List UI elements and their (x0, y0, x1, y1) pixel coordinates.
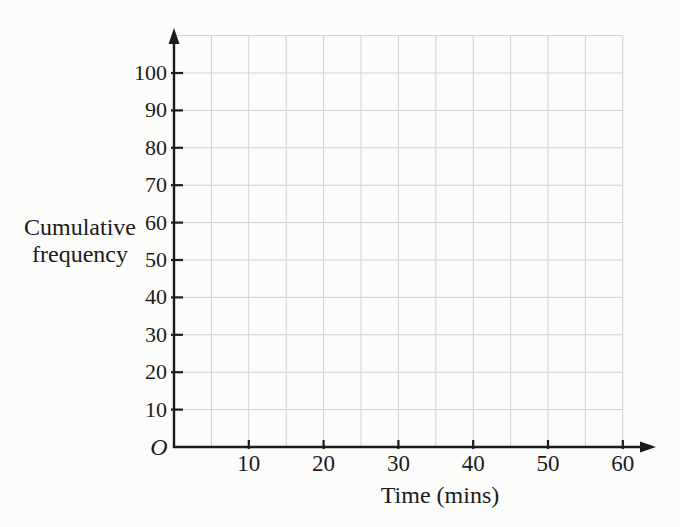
y-tick-label-60: 60 (103, 211, 167, 235)
y-tick-label-90: 90 (103, 98, 167, 122)
y-tick-label-70: 70 (103, 173, 167, 197)
y-tick-label-30: 30 (103, 323, 167, 347)
x-tick-label-60: 60 (593, 452, 653, 476)
y-tick-label-20: 20 (103, 360, 167, 384)
x-axis-title: Time (mins) (330, 482, 550, 508)
y-tick-label-80: 80 (103, 136, 167, 160)
y-tick-label-50: 50 (103, 248, 167, 272)
y-tick-label-100: 100 (103, 61, 167, 85)
origin-label: O (145, 434, 173, 460)
x-tick-label-50: 50 (518, 452, 578, 476)
x-tick-label-10: 10 (219, 452, 279, 476)
x-tick-label-40: 40 (443, 452, 503, 476)
y-tick-label-10: 10 (103, 398, 167, 422)
x-tick-label-20: 20 (294, 452, 354, 476)
cumulative-frequency-graph-figure: Cumulative frequency O Time (mins) 10203… (0, 0, 680, 527)
x-tick-label-30: 30 (368, 452, 428, 476)
y-tick-label-40: 40 (103, 285, 167, 309)
